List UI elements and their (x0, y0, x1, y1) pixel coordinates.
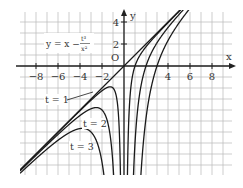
curve-t1 (127, 1, 189, 185)
y-axis-arrow-icon (121, 9, 127, 16)
formula-denominator: x² (81, 45, 88, 53)
x-axis-label: x (226, 51, 232, 62)
series-label: t = 1 (45, 94, 69, 105)
x-tick-label: −4 (73, 71, 88, 82)
formula-numerator: t³ (81, 35, 87, 43)
x-tick-label: −6 (51, 71, 66, 82)
x-tick-label: −2 (95, 71, 110, 82)
y-axis-label: y (129, 10, 136, 21)
x-tick-label: 8 (209, 71, 215, 82)
curve-t1 (20, 87, 121, 181)
series-label: t = 3 (70, 141, 94, 152)
parametric-curve-chart: −8−6−4−246824 x y O t = 1t = 2t = 3t³x²y… (0, 0, 243, 188)
x-axis-arrow-icon (229, 63, 236, 69)
x-tick-label: 4 (165, 71, 171, 82)
x-tick-label: 6 (187, 71, 193, 82)
origin-label: O (111, 52, 119, 63)
y-tick-label: 4 (113, 17, 119, 28)
x-tick-label: −8 (29, 71, 44, 82)
series-label: t = 2 (83, 118, 107, 129)
y-tick-label: 2 (113, 39, 119, 50)
formula-label: y = x − (45, 39, 80, 49)
